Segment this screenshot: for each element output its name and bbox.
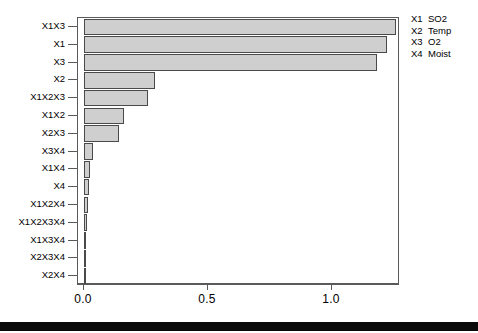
- legend-key-x3: X3: [411, 36, 428, 48]
- legend-value-x2: Temp: [428, 25, 451, 37]
- y-tick-x2x3: [68, 133, 77, 134]
- y-tick-x2x4: [68, 275, 77, 276]
- y-axis-label-x1: X1: [53, 39, 65, 49]
- bar-x1: [84, 36, 387, 53]
- bar-x1x2x4: [84, 197, 88, 214]
- y-tick-x1: [68, 44, 77, 45]
- bars-layer: [78, 18, 398, 283]
- y-tick-x2x3x4: [68, 257, 77, 258]
- legend-key-x4: X4: [411, 48, 428, 60]
- bar-x1x3x4: [84, 232, 86, 249]
- legend-value-x1: SO2: [428, 13, 447, 25]
- y-axis-label-x2x3x4: X2X3X4: [30, 252, 65, 262]
- x-axis-line: [77, 284, 399, 285]
- x-axis-label-0: 0.0: [74, 292, 92, 306]
- y-axis-label-x1x2: X1X2: [42, 110, 65, 120]
- y-axis-label-x3: X3: [53, 57, 65, 67]
- bar-x1x2x3x4: [84, 214, 87, 231]
- x-tick-1: [207, 284, 208, 290]
- y-axis-label-x1x3x4: X1X3X4: [30, 235, 65, 245]
- y-axis-label-x2x4: X2X4: [42, 270, 65, 280]
- y-axis: X1X3X1X3X2X1X2X3X1X2X2X3X3X4X1X4X4X1X2X4…: [0, 0, 77, 333]
- y-axis-label-x2x3: X2X3: [42, 128, 65, 138]
- legend-value-x4: Moist: [428, 48, 451, 60]
- y-axis-label-x4: X4: [53, 181, 65, 191]
- bar-x1x2: [84, 108, 124, 125]
- x-axis-label-2: 1.0: [322, 292, 340, 306]
- y-tick-x1x3: [68, 26, 77, 27]
- y-tick-x3: [68, 62, 77, 63]
- plot-area: [77, 17, 399, 284]
- bar-x2x4: [84, 268, 86, 285]
- legend-entry-x4: X4Moist: [411, 48, 451, 60]
- y-axis-label-x1x2x3x4: X1X2X3X4: [19, 217, 65, 227]
- y-tick-x1x4: [68, 168, 77, 169]
- y-tick-x1x2x3: [68, 97, 77, 98]
- legend: X1SO2X2TempX3O2X4Moist: [411, 13, 451, 59]
- y-tick-x1x2x3x4: [68, 222, 77, 223]
- bar-x3x4: [84, 143, 93, 160]
- bar-x3: [84, 54, 377, 71]
- y-tick-x1x2: [68, 115, 77, 116]
- y-tick-x3x4: [68, 151, 77, 152]
- chart-figure: X1X3X1X3X2X1X2X3X1X2X2X3X3X4X1X4X4X1X2X4…: [0, 0, 478, 333]
- bar-x1x3: [84, 19, 396, 36]
- legend-key-x1: X1: [411, 13, 428, 25]
- y-axis-label-x1x2x3: X1X2X3: [30, 92, 65, 102]
- legend-entry-x2: X2Temp: [411, 25, 451, 37]
- scan-edge-artifact: [0, 322, 478, 331]
- bar-x2: [84, 72, 155, 89]
- legend-entry-x3: X3O2: [411, 36, 451, 48]
- legend-value-x3: O2: [428, 36, 441, 48]
- y-tick-x1x3x4: [68, 240, 77, 241]
- y-axis-label-x1x3: X1X3: [42, 21, 65, 31]
- x-tick-2: [331, 284, 332, 290]
- y-tick-x1x2x4: [68, 204, 77, 205]
- bar-x4: [84, 179, 89, 196]
- y-axis-label-x3x4: X3X4: [42, 146, 65, 156]
- x-axis-label-1: 0.5: [198, 292, 216, 306]
- y-axis-label-x2: X2: [53, 74, 65, 84]
- bar-x2x3: [84, 125, 119, 142]
- x-tick-0: [83, 284, 84, 290]
- bar-x1x4: [84, 161, 90, 178]
- bar-x1x2x3: [84, 90, 148, 107]
- y-axis-label-x1x2x4: X1X2X4: [30, 199, 65, 209]
- y-axis-label-x1x4: X1X4: [42, 163, 65, 173]
- bar-x2x3x4: [84, 250, 86, 267]
- y-tick-x4: [68, 186, 77, 187]
- legend-key-x2: X2: [411, 25, 428, 37]
- y-tick-x2: [68, 79, 77, 80]
- legend-entry-x1: X1SO2: [411, 13, 451, 25]
